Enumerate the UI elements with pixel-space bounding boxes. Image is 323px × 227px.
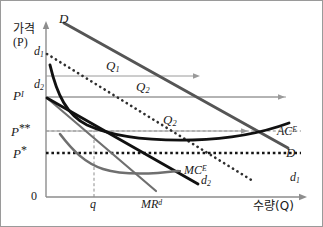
curve-label-d2-left: d2 xyxy=(34,78,44,91)
curve-label-d2-right: d2 xyxy=(201,174,211,187)
price-tick-P-I: PI xyxy=(13,89,24,102)
q3-span-arrowhead xyxy=(241,128,248,134)
q1-span-arrowhead xyxy=(193,73,200,79)
curve-label-MR-d: MRd xyxy=(141,198,162,210)
curve-label-d1-left: d1 xyxy=(34,45,44,58)
x-axis-label-quantity: 수량(Q) xyxy=(253,200,294,213)
curve-label-MC-E: MCE xyxy=(184,164,207,176)
price-tick-P-star: P* xyxy=(13,145,26,160)
reference-lines-group xyxy=(46,97,301,197)
y-axis-label-line2: (P) xyxy=(13,35,28,49)
curve-label-D-lower: D xyxy=(286,146,295,159)
q2-span-arrowhead xyxy=(278,94,285,100)
curve-label-d1-right: d1 xyxy=(290,171,300,184)
q-span-label-Q2: Q2 xyxy=(136,80,150,95)
price-tick-P-double-star: P** xyxy=(11,123,30,138)
curve-label-D-upper: D xyxy=(59,12,68,25)
y-axis-label-price: 가격 (P) xyxy=(13,23,35,48)
x-axis-arrow xyxy=(299,194,307,200)
y-axis-arrow xyxy=(43,21,49,29)
plot-canvas xyxy=(1,1,323,227)
q-span-label-Q3: Q2 xyxy=(163,113,177,128)
axis-group xyxy=(43,21,307,200)
curve-label-AC-E: ACE xyxy=(277,125,297,137)
quantity-tick-q: q xyxy=(90,198,96,210)
economics-diagram: 가격 (P) 수량(Q) 0 PI P** P* q D D d1 d2 d1 … xyxy=(0,0,323,227)
origin-label: 0 xyxy=(31,190,37,202)
q-span-label-Q1: Q1 xyxy=(106,59,120,74)
